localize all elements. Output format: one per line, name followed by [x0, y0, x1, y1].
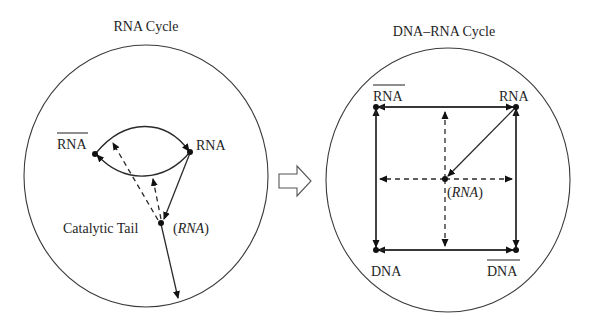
rna-cycle-panel: RNA Cycle RNA RNA Catalytic Tail (RNA): [24, 19, 268, 307]
edge-rna-to-tail: [164, 153, 190, 219]
label-dna: DNA: [371, 264, 402, 279]
node-catalytic-tail: [158, 220, 164, 226]
node-rna: [513, 104, 519, 110]
label-rna: RNA: [196, 138, 226, 153]
dashed-tail-to-top-arc: [113, 143, 158, 220]
node-dna: [373, 247, 379, 253]
label-rna: RNA: [499, 89, 529, 104]
diagram-canvas: RNA Cycle RNA RNA Catalytic Tail (RNA) D…: [0, 0, 589, 325]
arc-rna-to-rnabar: [97, 152, 190, 176]
dna-rna-cycle-title: DNA–RNA Cycle: [393, 24, 495, 39]
label-dna-bar: DNA: [487, 264, 518, 279]
node-rna-bar: [373, 104, 379, 110]
rna-cycle-title: RNA Cycle: [114, 19, 179, 34]
dna-rna-cycle-boundary: [326, 48, 570, 312]
label-rna-bar: RNA: [373, 89, 403, 104]
node-dna-bar: [513, 247, 519, 253]
edge-rna-to-center: [448, 108, 515, 176]
dna-rna-cycle-panel: DNA–RNA Cycle RNA RNA DNA DNA (RNA): [326, 24, 570, 312]
label-center-rna: (RNA): [447, 185, 483, 201]
hollow-right-arrow-icon: [279, 166, 311, 196]
node-rna-bar: [92, 151, 98, 157]
node-rna: [187, 149, 193, 155]
label-tail-rna: (RNA): [173, 221, 209, 237]
dashed-tail-to-bottom-arc: [153, 179, 161, 219]
label-rna-bar: RNA: [57, 137, 87, 152]
node-center-rna: [442, 176, 448, 182]
arc-rnabar-to-rna: [96, 126, 189, 153]
label-catalytic-tail: Catalytic Tail: [63, 221, 138, 236]
